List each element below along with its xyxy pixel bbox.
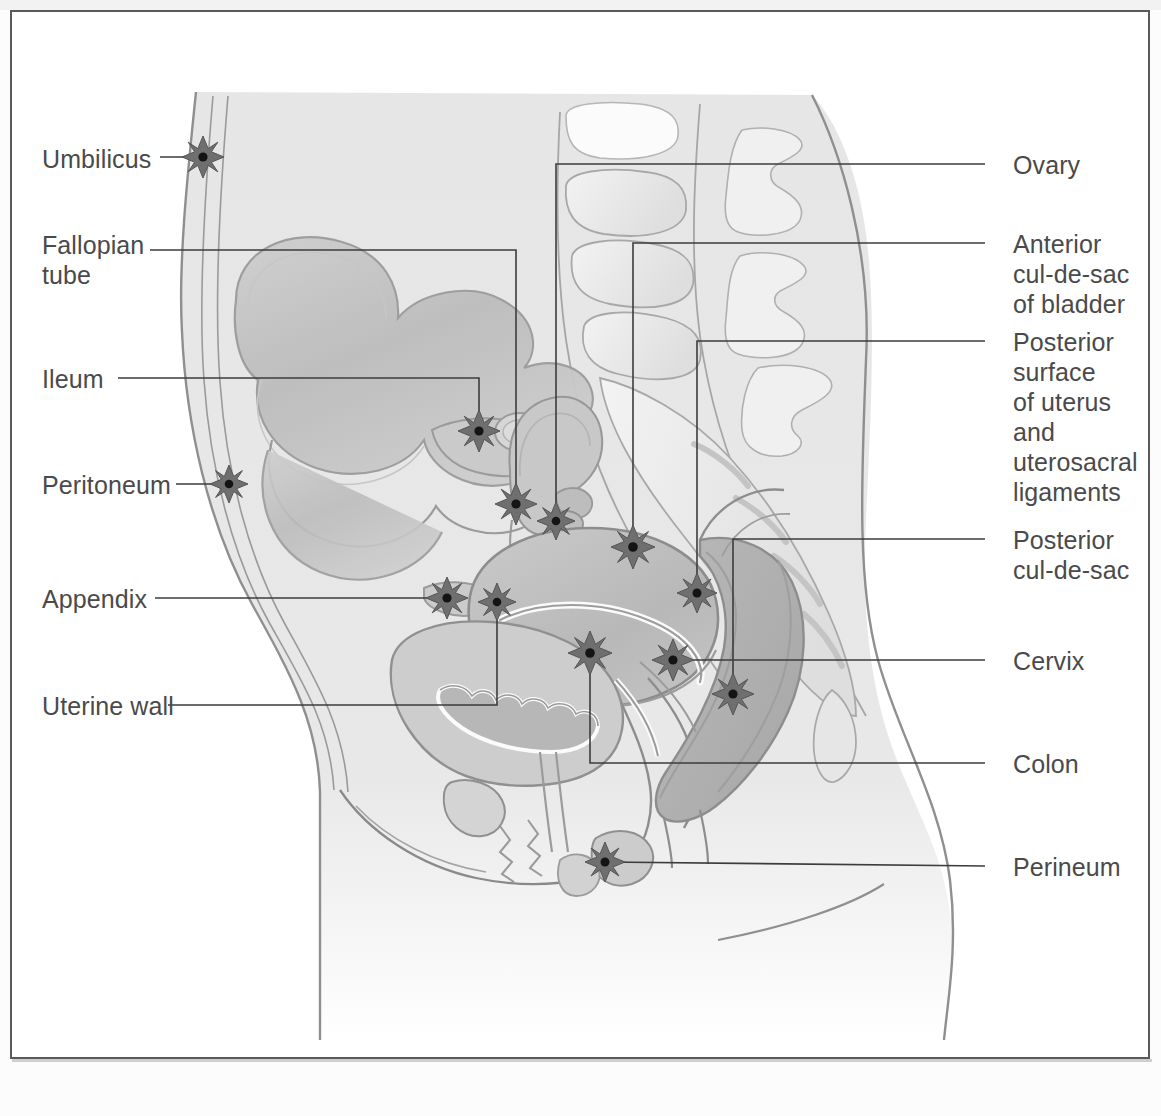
label-uterine-wall: Uterine wall: [42, 691, 174, 721]
anterior-cul-de-sac-marker: [611, 525, 655, 569]
label-posterior-uterus: Posterior surface of uterus and uterosac…: [1013, 327, 1138, 507]
peritoneum-marker: [210, 465, 248, 503]
label-appendix: Appendix: [42, 584, 147, 614]
perineum-marker: [585, 842, 625, 882]
label-cervix: Cervix: [1013, 646, 1084, 676]
anatomy-illustration: [0, 0, 1161, 1116]
fallopian-tube-marker: [495, 483, 537, 525]
label-umbilicus: Umbilicus: [42, 144, 151, 174]
appendix-marker: [426, 577, 468, 619]
umbilicus-marker: [182, 136, 224, 178]
label-ileum: Ileum: [42, 364, 104, 394]
cervix-marker: [652, 639, 694, 681]
label-colon: Colon: [1013, 749, 1079, 779]
label-fallopian-tube: Fallopian tube: [42, 230, 144, 290]
posterior-cul-de-sac-marker: [568, 631, 612, 675]
label-perineum: Perineum: [1013, 852, 1121, 882]
uterine-wall-marker: [478, 583, 516, 621]
label-ovary: Ovary: [1013, 150, 1080, 180]
ileum-marker: [458, 410, 500, 452]
ovary-marker: [537, 502, 575, 540]
label-anterior-cul-de-sac: Anterior cul-de-sac of bladder: [1013, 229, 1129, 319]
posterior-uterus-marker: [677, 573, 717, 613]
label-peritoneum: Peritoneum: [42, 470, 171, 500]
colon-marker: [712, 673, 754, 715]
figure-page: Umbilicus Fallopian tube Ileum Peritoneu…: [0, 0, 1161, 1116]
label-posterior-cul-de-sac: Posterior cul-de-sac: [1013, 525, 1129, 585]
